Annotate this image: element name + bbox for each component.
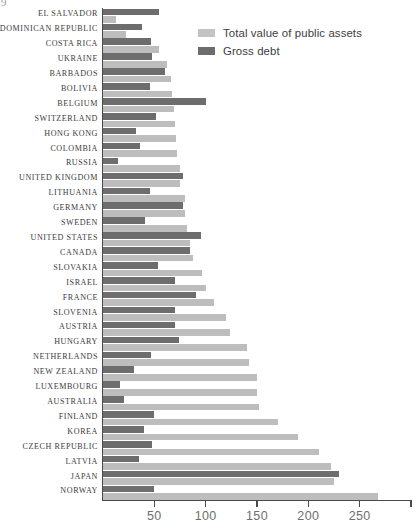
bar-row: ISRAEL [0, 276, 414, 291]
bar-gross-debt [103, 366, 134, 373]
bar-row: NETHERLANDS [0, 351, 414, 366]
category-label: FRANCE [0, 293, 98, 302]
bar-row: JAPAN [0, 470, 414, 485]
category-label: BELGIUM [0, 99, 98, 108]
category-label: COSTA RICA [0, 39, 98, 48]
bar-gross-debt [103, 262, 158, 269]
legend-label-public-assets: Total value of public assets [223, 27, 362, 39]
bar-public-assets [103, 270, 202, 277]
bar-row: UNITED KINGDOM [0, 172, 414, 187]
bar-public-assets [103, 180, 180, 187]
bar-row: AUSTRALIA [0, 396, 414, 411]
bar-row: NORWAY [0, 485, 414, 500]
bar-gross-debt [103, 426, 144, 433]
category-label: SLOVAKIA [0, 263, 98, 272]
bar-public-assets [103, 463, 331, 470]
legend-swatch-public-assets-icon [198, 29, 215, 37]
bar-public-assets [103, 434, 298, 441]
category-label: SWITZERLAND [0, 114, 98, 123]
bar-gross-debt [103, 98, 206, 105]
chart-figure: 9 50100150200250 EL SALVADORDOMINICAN RE… [0, 0, 414, 532]
bar-row: CANADA [0, 247, 414, 262]
category-label: AUSTRALIA [0, 397, 98, 406]
bar-gross-debt [103, 486, 154, 493]
bar-public-assets [103, 359, 249, 366]
legend-item-public-assets: Total value of public assets [198, 24, 362, 42]
bar-gross-debt [103, 277, 175, 284]
bar-row: RUSSIA [0, 157, 414, 172]
bar-row: UNITED STATES [0, 232, 414, 247]
category-label: BOLIVIA [0, 84, 98, 93]
bar-row: COLOMBIA [0, 142, 414, 157]
legend-label-gross-debt: Gross debt [223, 45, 280, 57]
bar-public-assets [103, 150, 177, 157]
category-label: SWEDEN [0, 218, 98, 227]
bar-public-assets [103, 121, 175, 128]
x-axis-tick [256, 501, 257, 507]
bar-public-assets [103, 76, 171, 83]
bar-gross-debt [103, 337, 179, 344]
bar-gross-debt [103, 247, 190, 254]
bar-gross-debt [103, 307, 175, 314]
x-axis-tick [308, 501, 309, 507]
category-label: CZECH REPUBLIC [0, 442, 98, 451]
bar-gross-debt [103, 396, 124, 403]
x-axis-tick [154, 501, 155, 507]
bar-row: LATVIA [0, 455, 414, 470]
bar-public-assets [103, 255, 193, 262]
category-label: KOREA [0, 427, 98, 436]
bar-gross-debt [103, 292, 196, 299]
bar-public-assets [103, 210, 185, 217]
bar-public-assets [103, 344, 247, 351]
bar-public-assets [103, 285, 206, 292]
bar-public-assets [103, 374, 257, 381]
bar-public-assets [103, 195, 185, 202]
bar-public-assets [103, 419, 278, 426]
bar-row: LITHUANIA [0, 187, 414, 202]
x-axis-tick [205, 501, 206, 507]
bar-gross-debt [103, 113, 156, 120]
category-label: EL SALVADOR [0, 9, 98, 18]
bar-public-assets [103, 165, 180, 172]
bar-public-assets [103, 240, 190, 247]
bar-gross-debt [103, 202, 183, 209]
bar-public-assets [103, 106, 174, 113]
category-label: DOMINICAN REPUBLIC [0, 24, 98, 33]
bar-gross-debt [103, 456, 139, 463]
bar-row: CZECH REPUBLIC [0, 440, 414, 455]
bar-row: FINLAND [0, 411, 414, 426]
bar-gross-debt [103, 352, 151, 359]
category-label: COLOMBIA [0, 144, 98, 153]
bar-gross-debt [103, 471, 339, 478]
category-label: UNITED KINGDOM [0, 173, 98, 182]
category-label: CANADA [0, 248, 98, 257]
bar-gross-debt [103, 143, 140, 150]
page-corner-mark: 9 [1, 0, 7, 7]
bar-public-assets [103, 135, 176, 142]
x-axis-tick [359, 501, 360, 507]
category-label: UNITED STATES [0, 233, 98, 242]
bar-row: GERMANY [0, 202, 414, 217]
bar-gross-debt [103, 173, 183, 180]
x-axis-tick-label: 100 [195, 509, 217, 523]
bar-gross-debt [103, 188, 150, 195]
bar-gross-debt [103, 38, 151, 45]
bar-public-assets [103, 478, 334, 485]
x-axis-tick-end [410, 501, 411, 507]
legend-swatch-gross-debt-icon [198, 47, 215, 55]
bar-row: FRANCE [0, 291, 414, 306]
bar-gross-debt [103, 381, 120, 388]
bar-gross-debt [103, 9, 159, 16]
bar-gross-debt [103, 232, 201, 239]
bar-row: LUXEMBOURG [0, 381, 414, 396]
bar-public-assets [103, 225, 187, 232]
bar-row: KOREA [0, 425, 414, 440]
bar-gross-debt [103, 441, 152, 448]
category-label: HUNGARY [0, 337, 98, 346]
bar-gross-debt [103, 322, 175, 329]
bar-row: BELGIUM [0, 97, 414, 112]
x-axis-tick-label: 50 [147, 509, 162, 523]
bar-row: HUNGARY [0, 336, 414, 351]
category-label: UKRAINE [0, 54, 98, 63]
bar-row: HONG KONG [0, 127, 414, 142]
